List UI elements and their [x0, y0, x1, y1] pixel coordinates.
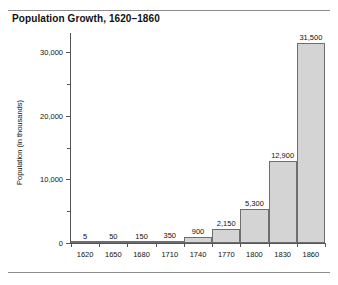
- x-axis-tick-label: 1830: [274, 250, 291, 259]
- bar: [269, 161, 297, 243]
- x-axis-tick-label: 1860: [303, 250, 320, 259]
- x-axis-tick-label: 1620: [77, 250, 94, 259]
- bar: [156, 241, 184, 243]
- x-axis-line: [70, 243, 326, 244]
- x-axis-tick: [184, 243, 185, 247]
- bar: [240, 209, 268, 243]
- x-axis-tick-label: 1770: [218, 250, 235, 259]
- x-axis-tick: [269, 243, 270, 247]
- x-axis-tick-label: 1680: [133, 250, 150, 259]
- x-axis-tick-label: 1740: [190, 250, 207, 259]
- bar: [127, 241, 155, 243]
- bar-value-label: 350: [164, 231, 177, 240]
- bar: [99, 241, 127, 243]
- y-axis-tick-label: 30,000: [40, 48, 63, 57]
- x-axis-tick: [71, 243, 72, 247]
- chart-figure: Population Growth, 1620–1860 Population …: [0, 0, 338, 285]
- bar: [184, 237, 212, 243]
- x-axis-tick: [99, 243, 100, 247]
- plot-area: 5501503509002,1505,30012,90031,500: [71, 33, 325, 243]
- bar-value-label: 2,150: [217, 219, 236, 228]
- bar-value-label: 50: [109, 232, 117, 241]
- x-axis-tick-label: 1710: [161, 250, 178, 259]
- bar: [71, 241, 99, 243]
- x-axis-tick: [325, 243, 326, 247]
- bar-value-label: 900: [192, 227, 205, 236]
- x-axis-tick: [240, 243, 241, 247]
- bar-value-label: 150: [135, 232, 148, 241]
- y-axis-tick-label: 20,000: [40, 111, 63, 120]
- bar: [212, 229, 240, 243]
- bar-value-label: 5: [83, 232, 87, 241]
- bar-value-label: 5,300: [245, 199, 264, 208]
- x-axis-tick: [127, 243, 128, 247]
- y-axis-ticks: 010,00020,00030,000: [0, 0, 71, 285]
- y-axis-tick-label: 0: [59, 239, 63, 248]
- bar: [297, 43, 325, 243]
- y-axis-tick-label: 10,000: [40, 175, 63, 184]
- x-axis-tick: [212, 243, 213, 247]
- bar-value-label: 31,500: [299, 33, 322, 42]
- x-axis-tick: [297, 243, 298, 247]
- x-axis-tick: [156, 243, 157, 247]
- x-axis-tick-label: 1650: [105, 250, 122, 259]
- x-axis-tick-label: 1800: [246, 250, 263, 259]
- bar-value-label: 12,900: [271, 151, 294, 160]
- bottom-rule: [8, 272, 330, 273]
